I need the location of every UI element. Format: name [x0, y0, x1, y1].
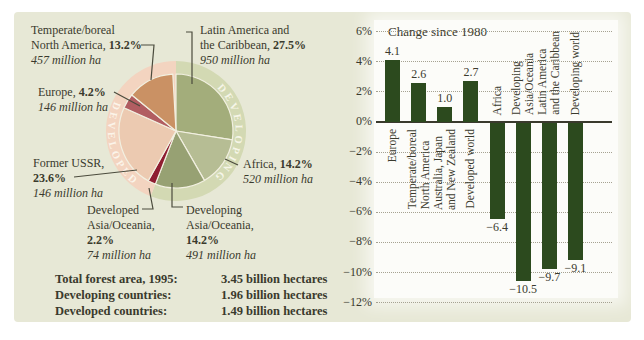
bar-developing-asia-oceania [516, 123, 531, 281]
bar-value-label: −9.1 [550, 261, 600, 276]
bar-category-text: Developing world [569, 32, 582, 115]
bar-value-label: 1.0 [420, 91, 470, 106]
y-tick-label: −10% [316, 265, 372, 280]
y-gridline [376, 302, 612, 303]
bar-value-label: 2.7 [446, 65, 496, 80]
y-tick-label: 2% [316, 84, 372, 99]
y-tick-label: 0% [316, 114, 372, 129]
figure-panel: DEVELOPINGDEVELOPED Temperate/boreal Nor… [14, 12, 631, 322]
bar-value-label: −6.4 [472, 220, 522, 235]
bar-value-label: 2.6 [394, 67, 444, 82]
bar-africa [490, 123, 505, 219]
y-tick-label: 6% [316, 24, 372, 39]
bar-australia-japan-and-new-zealand [437, 107, 452, 122]
y-tick-label: −8% [316, 234, 372, 249]
bar-value-label: 4.1 [368, 44, 418, 59]
bar-category-text: Developed world [464, 129, 477, 209]
y-tick-label: 4% [316, 54, 372, 69]
y-tick-label: −6% [316, 204, 372, 219]
y-tick-label: −12% [316, 295, 372, 310]
bar-developing-world [568, 123, 583, 260]
bar-latin-america-and-the-caribbean [542, 123, 557, 269]
bar-chart: Change since 1980 6%4%2%0%−2%−4%−6%−8%−1… [14, 12, 631, 322]
bar-category-label: Developing world [545, 32, 605, 115]
y-tick-label: −4% [316, 174, 372, 189]
figure-page: DEVELOPINGDEVELOPED Temperate/boreal Nor… [0, 0, 644, 340]
